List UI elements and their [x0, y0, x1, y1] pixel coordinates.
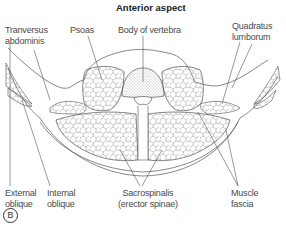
cross-section-diagram — [0, 0, 286, 230]
spinous-process — [138, 106, 148, 160]
right-lateral-muscles — [254, 66, 280, 109]
